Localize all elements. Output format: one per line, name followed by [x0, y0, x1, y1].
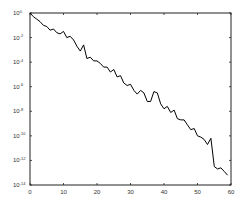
y-tick-label: 10-6 [13, 82, 24, 90]
x-tick-label: 30 [127, 189, 134, 195]
y-tick-label: 10-10 [13, 131, 26, 139]
x-tick-label: 0 [28, 189, 32, 195]
x-tick-label: 40 [161, 189, 168, 195]
x-tick-label: 60 [228, 189, 235, 195]
plot-frame [30, 13, 231, 185]
x-tick-label: 50 [194, 189, 201, 195]
y-tick-label: 10-4 [13, 58, 24, 66]
x-tick-label: 10 [60, 189, 67, 195]
y-tick-label: 100 [13, 9, 23, 17]
x-tick-label: 20 [94, 189, 101, 195]
y-tick-label: 10-8 [13, 107, 24, 115]
y-tick-label: 10-2 [13, 33, 24, 41]
y-tick-label: 10-12 [13, 156, 26, 164]
y-tick-label: 10-14 [13, 181, 26, 189]
x-axis: 0102030405060 [28, 13, 235, 195]
line-chart: 10010-210-410-610-810-1010-1210-14 01020… [0, 0, 242, 201]
y-axis: 10010-210-410-610-810-1010-1210-14 [13, 9, 231, 189]
data-series-line [30, 13, 228, 175]
